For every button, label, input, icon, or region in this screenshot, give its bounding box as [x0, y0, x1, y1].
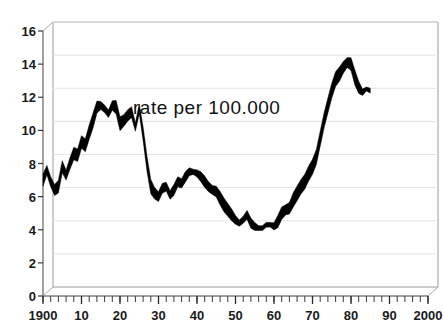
y-axis-tick-label: 4 — [4, 224, 36, 237]
y-axis-tick-label: 16 — [4, 25, 36, 38]
y-axis-tick-label: 10 — [4, 124, 36, 137]
chart-annotation-label: rate per 100.000 — [133, 98, 280, 117]
frame-connector — [43, 287, 53, 296]
x-axis-tick-label: 2000 — [400, 309, 444, 322]
frame-connector — [428, 287, 438, 296]
y-axis-tick-label: 2 — [4, 257, 36, 270]
x-axis-major-ticks — [43, 296, 428, 304]
frame-connector — [43, 22, 53, 31]
chart-container: 0246810121416 19001020304050607080902000… — [0, 0, 444, 333]
y-axis-ticks — [38, 31, 43, 296]
y-axis-tick-label: 12 — [4, 91, 36, 104]
chart-plot-area — [0, 0, 444, 333]
y-axis-tick-label: 8 — [4, 158, 36, 171]
y-axis-tick-label: 14 — [4, 58, 36, 71]
y-axis-tick-label: 6 — [4, 191, 36, 204]
y-axis-tick-label: 0 — [4, 290, 36, 303]
